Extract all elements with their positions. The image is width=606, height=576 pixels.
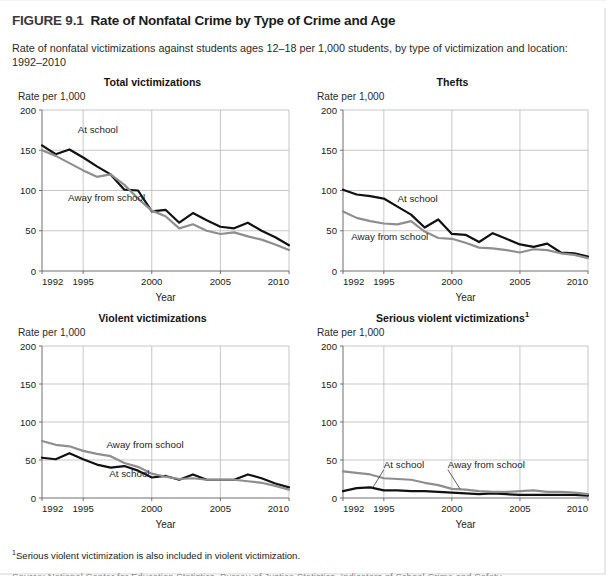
x-tick-label: 2010 [268, 503, 289, 514]
y-tick-label: 50 [326, 455, 337, 466]
figure-header: FIGURE 9.1 Rate of Nonfatal Crime by Typ… [12, 13, 592, 33]
x-axis-label: Year [155, 292, 176, 303]
y-tick-label: 0 [31, 266, 36, 277]
x-tick-label: 1992 [42, 503, 63, 514]
y-tick-label: 150 [321, 379, 337, 390]
chart-title: Serious violent victimizations1 [303, 311, 602, 325]
x-tick-label: 1995 [373, 503, 394, 514]
figure-subtitle: Rate of nonfatal victimizations against … [12, 41, 582, 69]
y-axis-ticks: 050100150200 [321, 341, 343, 504]
y-axis-ticks: 050100150200 [321, 105, 343, 277]
chart-title: Total victimizations [4, 75, 301, 89]
series-annotation-label: Away from school [106, 439, 183, 450]
x-axis-ticks: 19921995200020052010 [42, 498, 289, 514]
page-title: Rate of Nonfatal Crime by Type of Crime … [91, 13, 396, 28]
chart-panel-total-victimizations: Total victimizations Rate per 1,000 0501… [4, 75, 301, 312]
x-tick-label: 2010 [567, 276, 588, 287]
chart-title-text: Violent victimizations [98, 312, 206, 324]
y-axis-label: Rate per 1,000 [18, 325, 301, 340]
x-tick-label: 2010 [268, 276, 289, 287]
y-tick-label: 50 [25, 455, 36, 466]
chart-svg: 05010015020019921995200020052010At schoo… [303, 340, 602, 536]
plot-area: 05010015020019921995200020052010At schoo… [4, 104, 301, 309]
figure-number: FIGURE 9.1 [12, 13, 84, 28]
x-axis-ticks: 19921995200020052010 [343, 498, 588, 514]
chart-svg: 05010015020019921995200020052010Away fro… [4, 340, 301, 536]
x-tick-label: 2000 [141, 503, 162, 514]
x-tick-label: 2000 [141, 276, 162, 287]
series-annotation-label: At school [78, 124, 118, 135]
series-annotation-label: At school [397, 193, 437, 204]
y-tick-label: 0 [332, 266, 337, 277]
x-axis-label: Year [455, 519, 476, 530]
y-axis-label: Rate per 1,000 [317, 325, 602, 340]
y-tick-label: 100 [20, 417, 36, 428]
y-tick-label: 200 [321, 341, 337, 352]
chart-title: Violent victimizations [4, 311, 301, 325]
x-tick-label: 2000 [441, 503, 462, 514]
series-annotation-label: At school [384, 459, 424, 470]
y-tick-label: 0 [332, 493, 337, 504]
series-annotation-label: Away from school [448, 459, 525, 470]
chart-title-footnote-marker: 1 [525, 310, 529, 319]
x-tick-label: 1992 [343, 503, 364, 514]
plot-area: 05010015020019921995200020052010At schoo… [303, 104, 602, 309]
x-tick-label: 2010 [567, 503, 588, 514]
chart-panel-violent-victimizations: Violent victimizations Rate per 1,000 05… [4, 311, 301, 537]
chart-title-text: Thefts [437, 76, 469, 88]
chart-panel-serious-violent-victimizations: Serious violent victimizations1 Rate per… [303, 311, 602, 537]
chart-title: Thefts [303, 75, 602, 89]
y-tick-label: 100 [321, 185, 337, 196]
top-strip [0, 1, 606, 8]
chart-panel-thefts: Thefts Rate per 1,000 050100150200199219… [303, 75, 602, 312]
x-axis-label: Year [155, 519, 176, 530]
x-tick-label: 1995 [373, 276, 394, 287]
series-annotation-label: At school [109, 468, 149, 479]
source-line-clipped: Source: National Center for Education St… [12, 570, 592, 576]
x-axis-ticks: 19921995200020052010 [343, 271, 588, 287]
y-tick-label: 100 [321, 417, 337, 428]
y-tick-label: 200 [321, 105, 337, 116]
x-tick-label: 2000 [441, 276, 462, 287]
x-axis-label: Year [455, 292, 476, 303]
x-tick-label: 2005 [509, 276, 530, 287]
x-tick-label: 2005 [210, 503, 231, 514]
plot-area: 05010015020019921995200020052010Away fro… [4, 340, 301, 536]
chart-title-text: Total victimizations [104, 76, 202, 88]
series-annotation-label: Away from school [351, 231, 428, 242]
chart-title-text: Serious violent victimizations [376, 312, 525, 324]
y-tick-label: 150 [20, 145, 36, 156]
y-axis-label: Rate per 1,000 [18, 89, 301, 104]
y-tick-label: 150 [321, 145, 337, 156]
series-annotation-label: Away from school [68, 192, 145, 203]
y-axis-ticks: 050100150200 [20, 105, 42, 277]
y-tick-label: 100 [20, 185, 36, 196]
y-tick-label: 0 [31, 493, 36, 504]
y-axis-label: Rate per 1,000 [317, 89, 602, 104]
chart-svg: 05010015020019921995200020052010At schoo… [303, 104, 602, 309]
x-tick-label: 2005 [210, 276, 231, 287]
y-tick-label: 200 [20, 105, 36, 116]
footnote-1: 1Serious violent victimization is also i… [12, 549, 592, 562]
y-axis-ticks: 050100150200 [20, 341, 42, 504]
x-tick-label: 1995 [72, 503, 93, 514]
x-tick-label: 2005 [509, 503, 530, 514]
chart-svg: 05010015020019921995200020052010At schoo… [4, 104, 301, 309]
footnote-text: Serious violent victimization is also in… [16, 550, 300, 561]
x-axis-ticks: 19921995200020052010 [42, 271, 289, 287]
y-tick-label: 150 [20, 379, 36, 390]
y-tick-label: 200 [20, 341, 36, 352]
y-tick-label: 50 [326, 225, 337, 236]
x-tick-label: 1992 [42, 276, 63, 287]
x-tick-label: 1992 [343, 276, 364, 287]
charts-grid: Total victimizations Rate per 1,000 0501… [0, 75, 606, 537]
plot-area: 05010015020019921995200020052010At schoo… [303, 340, 602, 536]
y-tick-label: 50 [25, 225, 36, 236]
x-tick-label: 1995 [72, 276, 93, 287]
